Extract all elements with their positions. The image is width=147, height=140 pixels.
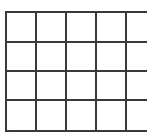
grid-cell[interactable] xyxy=(6,42,36,71)
grid-row xyxy=(6,100,147,131)
grid-cell[interactable] xyxy=(6,71,36,100)
grid-cell[interactable] xyxy=(96,71,126,100)
grid-cell[interactable] xyxy=(6,100,36,131)
grid-cell[interactable] xyxy=(66,12,96,42)
grid-cell[interactable] xyxy=(36,71,66,100)
grid-row xyxy=(6,71,147,100)
grid-cell[interactable] xyxy=(36,100,66,131)
grid-body xyxy=(6,12,147,131)
grid-cell[interactable] xyxy=(66,100,96,131)
grid-figure xyxy=(0,0,147,140)
grid-cell[interactable] xyxy=(66,71,96,100)
grid-cell[interactable] xyxy=(126,100,147,131)
grid-table xyxy=(5,11,147,132)
grid-cell[interactable] xyxy=(6,12,36,42)
grid-cell[interactable] xyxy=(36,42,66,71)
grid-cell[interactable] xyxy=(66,42,96,71)
grid-cell[interactable] xyxy=(126,12,147,42)
grid-cell[interactable] xyxy=(126,71,147,100)
grid-cell[interactable] xyxy=(96,12,126,42)
grid-cell[interactable] xyxy=(126,42,147,71)
grid-row xyxy=(6,12,147,42)
grid-row xyxy=(6,42,147,71)
grid-cell[interactable] xyxy=(36,12,66,42)
grid-cell[interactable] xyxy=(96,100,126,131)
grid-cell[interactable] xyxy=(96,42,126,71)
